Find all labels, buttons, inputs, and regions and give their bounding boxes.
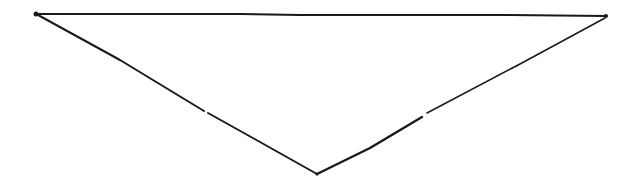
right-edge-lower (317, 117, 422, 174)
left-edge-upper (38, 15, 204, 111)
vertex-top-left (34, 12, 39, 17)
top-edge (36, 14, 606, 16)
triangle-diagram (0, 0, 634, 188)
right-edge-upper (427, 18, 605, 113)
vertex-bottom (316, 173, 319, 176)
diagram-canvas (0, 0, 634, 188)
left-edge-lower (208, 113, 317, 174)
vertex-top-right (604, 14, 608, 18)
